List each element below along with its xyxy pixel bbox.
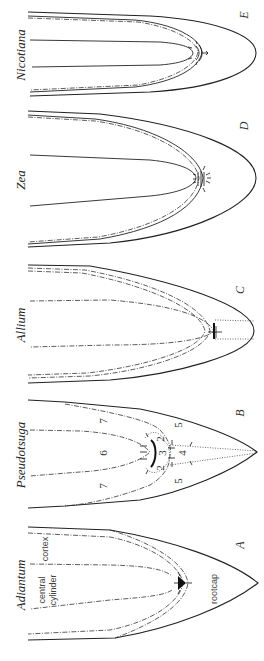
- root-outline: [28, 400, 257, 508]
- zone-number: 7: [97, 483, 109, 489]
- rootcap-label: rootcap: [209, 574, 219, 604]
- cortex-boundary: [28, 115, 203, 244]
- initials-arc: [151, 440, 156, 467]
- central-cylinder: [30, 155, 196, 206]
- panel-letter: E: [237, 11, 251, 20]
- cortex-boundary: [28, 16, 202, 92]
- zone-number: 2: [154, 465, 166, 471]
- genus-label: Zea: [13, 170, 28, 190]
- panel-b-pseudotsuga: Pseudotsuga 7 6 7 5 2 3 2 4 5 B: [13, 400, 257, 508]
- cortex-label: cortex: [40, 536, 50, 561]
- zone-number: 6: [97, 450, 109, 456]
- zone-number: 5: [172, 422, 184, 428]
- apical-cell-icon: [174, 572, 192, 594]
- central-cylinder: [30, 430, 150, 476]
- zone-number: 3: [156, 450, 168, 456]
- root-outline: [28, 12, 256, 96]
- central-cylinder-label: central: [37, 576, 47, 603]
- root-outline: [28, 265, 254, 383]
- panel-letter: D: [237, 121, 251, 131]
- root-apex-diagram: Nicotiana E Zea D Allium C: [0, 0, 264, 661]
- epidermis-boundary: [110, 530, 188, 638]
- genus-label: Pseudotsuga: [13, 421, 28, 489]
- zone-number: 7: [97, 418, 109, 424]
- columella-line: [215, 320, 254, 321]
- cortex-boundary: [28, 268, 210, 378]
- central-cylinder: [30, 40, 193, 67]
- root-outline: [28, 527, 258, 640]
- panel-c-allium: Allium C: [13, 265, 254, 383]
- central-cylinder-label: cylinder: [48, 574, 58, 605]
- epidermis-boundary: [28, 117, 199, 242]
- genus-label: Allium: [13, 308, 28, 344]
- zone-number: 2: [154, 436, 166, 442]
- panel-letter: B: [233, 409, 247, 417]
- genus-label: Adiantum: [13, 560, 28, 612]
- epidermis-boundary: [28, 18, 198, 90]
- panel-letter: C: [233, 285, 247, 294]
- root-outline: [28, 111, 256, 247]
- genus-label: Nicotiana: [13, 29, 28, 82]
- zone-number: 4: [176, 450, 188, 456]
- columella-line: [170, 445, 257, 451]
- central-cylinder: [30, 300, 214, 347]
- zone-number: 5: [172, 478, 184, 484]
- panel-d-zea: Zea D: [13, 111, 256, 247]
- panel-letter: A: [233, 541, 247, 550]
- panel-a-adiantum: Adiantum cortex central cylinder rootcap…: [13, 527, 258, 640]
- panel-e-nicotiana: Nicotiana E: [13, 11, 256, 96]
